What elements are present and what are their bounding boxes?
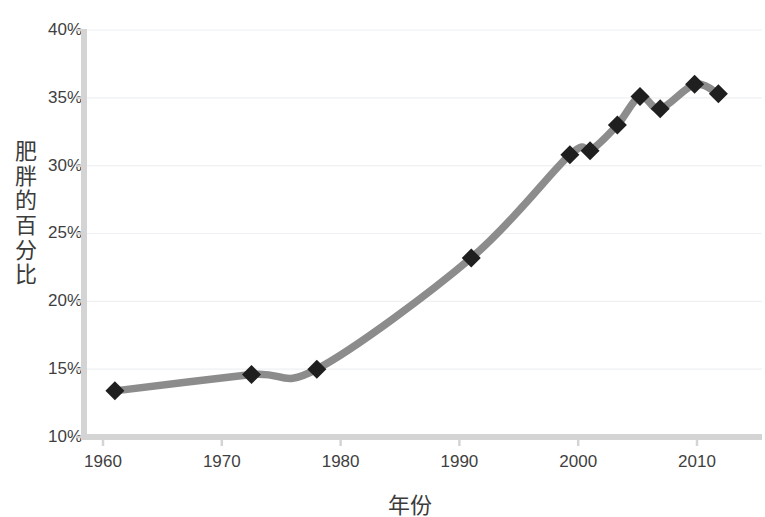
obesity-line-chart: 肥胖的百分比 40%35%30%25%20%15%10% 19601970198…: [0, 0, 765, 517]
data-point-marker: [105, 381, 124, 400]
series-line: [115, 84, 719, 391]
x-axis-title: 年份: [0, 487, 765, 517]
data-point-marker: [242, 365, 261, 384]
plot-area: [0, 0, 765, 517]
